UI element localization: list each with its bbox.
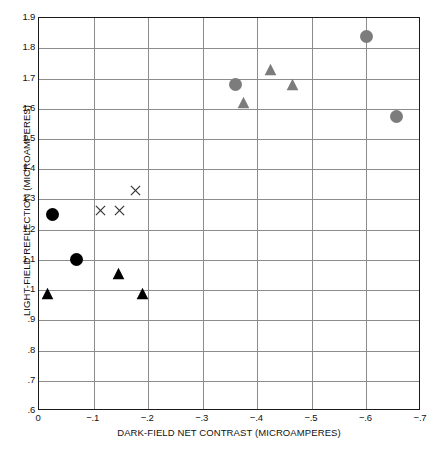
y-axis-title: LIGHT-FIELD REFLECTION (MICROAMPERES) — [21, 91, 32, 331]
x-tick-label: −.1 — [78, 413, 108, 423]
x-tick-label: −.4 — [241, 413, 271, 423]
x-axis-tick-labels: 0−.1−.2−.3−.4−.5−.6−.7 — [0, 0, 435, 449]
x-tick-label: −.6 — [350, 413, 380, 423]
x-tick-label: −.2 — [132, 413, 162, 423]
x-tick-label: −.5 — [296, 413, 326, 423]
x-tick-label: 0 — [23, 413, 53, 423]
scatter-chart-figure: 1.91.81.71.61.51.41.31.21.11.9.8.7.6 0−.… — [0, 0, 435, 449]
x-axis-title: DARK-FIELD NET CONTRAST (MICROAMPERES) — [38, 427, 420, 438]
x-tick-label: −.7 — [405, 413, 435, 423]
x-tick-label: −.3 — [187, 413, 217, 423]
